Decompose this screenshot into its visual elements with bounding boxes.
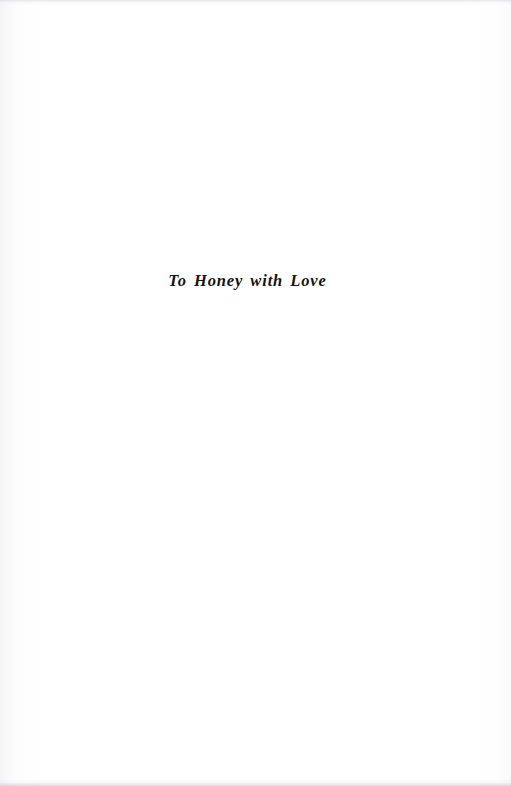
scanned-page: To Honey with Love [0,0,511,786]
page-content-area: To Honey with Love [0,0,511,786]
dedication-block: To Honey with Love [0,272,511,290]
dedication-text: To Honey with Love [168,272,326,290]
